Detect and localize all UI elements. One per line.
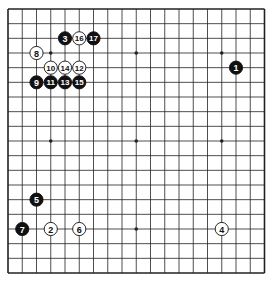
move-number: 2	[48, 225, 53, 235]
stone-black-15: 15	[73, 76, 86, 89]
star-point	[49, 51, 53, 55]
move-number: 16	[75, 34, 84, 43]
move-number: 4	[219, 225, 224, 235]
star-point	[49, 139, 53, 143]
move-number: 12	[75, 64, 84, 73]
move-number: 15	[75, 78, 84, 87]
move-number: 10	[46, 64, 55, 73]
star-point	[134, 51, 138, 55]
move-number: 3	[62, 34, 67, 44]
stone-black-7: 7	[16, 222, 29, 235]
move-number: 13	[61, 78, 70, 87]
move-number: 1	[233, 63, 238, 73]
stone-white-12: 12	[73, 61, 86, 74]
stone-white-10: 10	[44, 61, 57, 74]
star-point	[134, 227, 138, 231]
stones: 1234567891011121314151617	[16, 32, 243, 236]
stone-black-13: 13	[58, 76, 71, 89]
star-point	[220, 139, 224, 143]
stone-black-9: 9	[30, 76, 43, 89]
stone-white-6: 6	[73, 222, 86, 235]
go-board: 1234567891011121314151617	[0, 0, 268, 287]
move-number: 11	[47, 78, 56, 87]
stone-black-5: 5	[30, 193, 43, 206]
stone-white-16: 16	[73, 32, 86, 45]
move-number: 5	[34, 195, 39, 205]
move-number: 8	[34, 49, 39, 59]
move-number: 9	[34, 78, 39, 88]
stone-white-2: 2	[44, 222, 57, 235]
stone-black-17: 17	[87, 32, 100, 45]
move-number: 17	[89, 34, 98, 43]
stone-black-1: 1	[229, 61, 242, 74]
move-number: 6	[77, 225, 82, 235]
star-point	[134, 139, 138, 143]
stone-black-11: 11	[44, 76, 57, 89]
stone-black-3: 3	[58, 32, 71, 45]
move-number: 7	[20, 225, 25, 235]
star-point	[220, 51, 224, 55]
stone-white-4: 4	[215, 222, 228, 235]
stone-white-14: 14	[58, 61, 71, 74]
stone-white-8: 8	[30, 46, 43, 59]
move-number: 14	[61, 64, 70, 73]
